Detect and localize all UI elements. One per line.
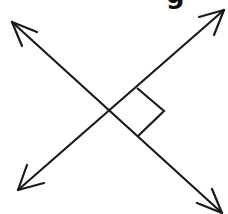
geometry-canvas — [0, 0, 228, 214]
right-angle-square — [137, 88, 164, 136]
line-up-right — [18, 10, 224, 190]
geometry-figure: g — [0, 0, 228, 214]
line-up-right-shaft — [18, 10, 224, 190]
line-down-right-shaft — [12, 22, 222, 213]
line-down-right — [12, 22, 222, 213]
clipped-top-label: g — [166, 0, 185, 7]
